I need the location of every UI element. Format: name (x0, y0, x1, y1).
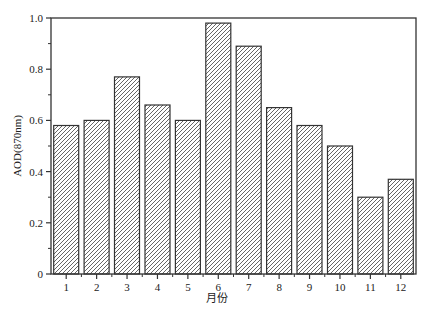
bar-month-3 (115, 77, 140, 274)
bar-month-5 (175, 120, 200, 274)
x-tick-label: 7 (246, 281, 252, 293)
x-tick-label: 1 (63, 281, 69, 293)
bar-month-9 (297, 126, 322, 275)
x-tick-label: 9 (307, 281, 313, 293)
x-tick-label: 3 (124, 281, 130, 293)
bar-chart: 00.20.40.60.81.0 123456789101112 月份 AOD(… (0, 0, 428, 319)
bar-month-12 (388, 179, 413, 274)
y-tick-label: 1.0 (29, 12, 43, 24)
x-tick-label: 12 (395, 281, 406, 293)
bar-month-10 (328, 146, 353, 274)
x-axis-ticks: 123456789101112 (63, 274, 406, 293)
y-tick-label: 0 (38, 268, 44, 280)
x-axis-title: 月份 (206, 292, 228, 304)
bar-series (54, 23, 414, 274)
y-tick-label: 0.2 (29, 217, 43, 229)
y-tick-label: 0.6 (29, 114, 43, 126)
bar-month-11 (358, 197, 383, 274)
y-tick-label: 0.8 (29, 63, 43, 75)
x-tick-label: 8 (276, 281, 282, 293)
x-tick-label: 11 (365, 281, 376, 293)
bar-month-2 (84, 120, 109, 274)
x-tick-label: 5 (185, 281, 191, 293)
x-tick-label: 4 (155, 281, 161, 293)
bar-month-8 (267, 108, 292, 274)
y-tick-label: 0.4 (29, 166, 43, 178)
y-axis-title: AOD(870nm) (11, 115, 24, 177)
y-axis-ticks: 00.20.40.60.81.0 (29, 12, 51, 280)
bar-month-6 (206, 23, 231, 274)
bar-month-1 (54, 126, 79, 275)
bar-month-4 (145, 105, 170, 274)
x-tick-label: 10 (334, 281, 346, 293)
bar-month-7 (236, 46, 261, 274)
x-tick-label: 2 (94, 281, 100, 293)
